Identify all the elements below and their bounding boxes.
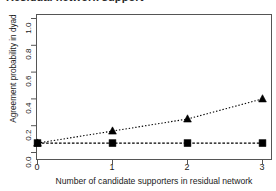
y-tickmarks (31, 19, 36, 153)
series-dotted-triangle-series (34, 95, 267, 146)
data-point-marker (109, 140, 116, 147)
data-point-marker (184, 140, 191, 147)
data-point-marker (109, 127, 117, 134)
figure-panel: Residual network support Agreement proba… (0, 0, 276, 191)
series-line (38, 99, 263, 143)
data-point-marker (184, 115, 192, 122)
plot-frame (37, 15, 272, 160)
data-point-marker (34, 140, 41, 147)
x-tickmarks (38, 160, 263, 165)
data-point-marker (259, 95, 267, 102)
series-layer (34, 95, 267, 147)
plot-canvas (0, 0, 276, 191)
data-point-marker (259, 140, 266, 147)
series-dashed-square-series (34, 140, 266, 147)
